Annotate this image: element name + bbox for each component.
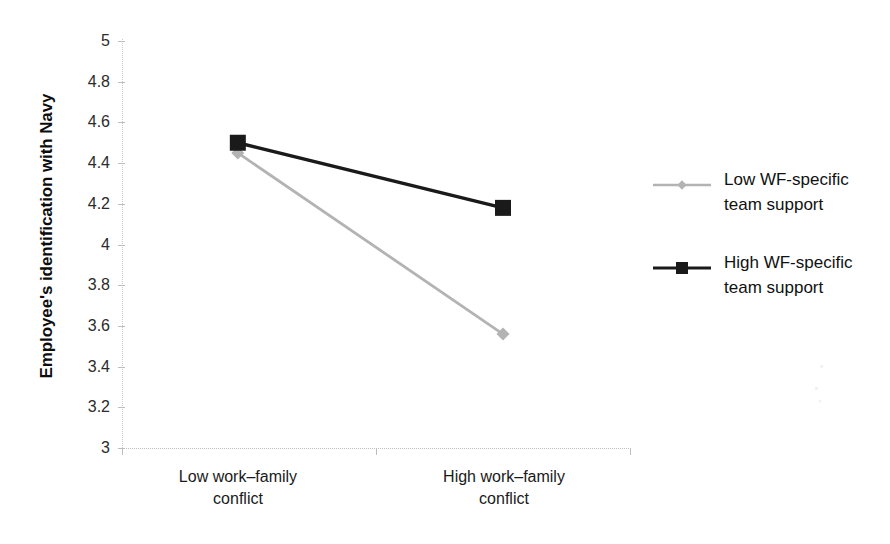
scan-artifact xyxy=(806,356,832,414)
legend-entry-high[interactable]: High WF-specific team support xyxy=(652,251,884,300)
series-line xyxy=(238,143,503,208)
chart-legend: Low WF-specific team support High WF-spe… xyxy=(652,168,884,335)
data-point-marker-square xyxy=(495,200,511,216)
legend-marker-diamond-icon xyxy=(652,177,712,193)
legend-marker-square-icon xyxy=(652,260,712,276)
legend-label-low-line2: team support xyxy=(724,193,876,218)
data-point-marker-square xyxy=(230,135,246,151)
legend-label-high-line2: team support xyxy=(724,276,876,301)
series-line xyxy=(238,153,503,334)
chart-figure: Employee's identification with Navy 54.8… xyxy=(0,0,890,544)
legend-label-high-line1: High WF-specific xyxy=(724,251,876,276)
legend-label-high: High WF-specific team support xyxy=(724,251,876,300)
legend-label-low: Low WF-specific team support xyxy=(724,168,876,217)
legend-entry-low[interactable]: Low WF-specific team support xyxy=(652,168,884,217)
legend-label-low-line1: Low WF-specific xyxy=(724,168,876,193)
